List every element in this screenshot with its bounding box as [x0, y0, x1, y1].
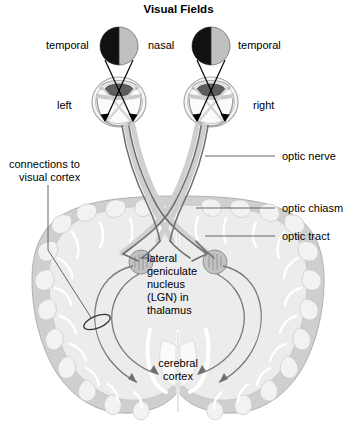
label-optic-nerve: optic nerve	[282, 150, 336, 163]
label-lgn-line3: nucleus	[147, 278, 185, 291]
label-lgn-line2: geniculate	[147, 265, 197, 278]
label-eye-left: left	[57, 99, 72, 112]
eye-right	[184, 77, 238, 127]
visual-field-left-eye	[100, 27, 138, 65]
label-temporal-left: temporal	[46, 39, 89, 52]
visual-pathway-diagram-page: Visual Fields	[0, 0, 357, 428]
label-cerebral-cortex-line2: cortex	[140, 370, 216, 383]
label-eye-right: right	[253, 99, 274, 112]
label-connections-to-visual-cortex-line1: connections to	[9, 158, 80, 171]
label-lgn-line5: thalamus	[147, 304, 192, 317]
visual-field-right-eye	[192, 27, 230, 65]
eye-left	[92, 77, 146, 127]
label-optic-chiasm: optic chiasm	[282, 202, 343, 215]
label-connections-to-visual-cortex-line2: visual cortex	[19, 171, 80, 184]
label-lgn-line1: lateral	[147, 252, 177, 265]
label-temporal-right: temporal	[238, 39, 281, 52]
visual-field-right-temporal-half	[192, 27, 211, 65]
label-lgn-line4: (LGN) in	[147, 291, 189, 304]
visual-field-left-temporal-half	[100, 27, 119, 65]
label-optic-tract: optic tract	[282, 230, 330, 243]
label-cerebral-cortex-line1: cerebral	[140, 357, 216, 370]
label-nasal: nasal	[148, 39, 174, 52]
